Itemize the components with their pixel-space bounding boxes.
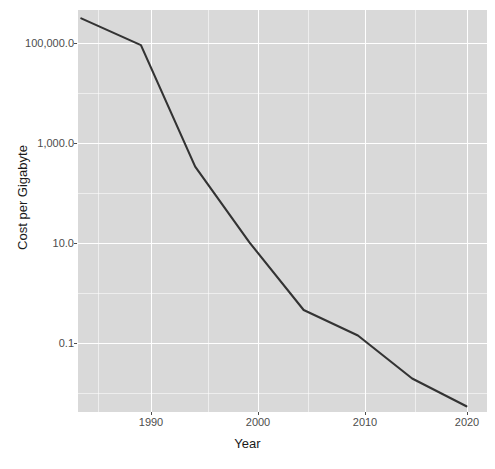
series-cost-per-gigabyte bbox=[78, 10, 487, 412]
x-tick-label-2010: 2010 bbox=[353, 416, 377, 428]
line-path bbox=[81, 18, 466, 406]
y-axis-title: Cost per Gigabyte bbox=[15, 88, 30, 308]
x-tick-label-2000: 2000 bbox=[246, 416, 270, 428]
x-tick-mark-2000 bbox=[258, 412, 259, 415]
x-tick-mark-2010 bbox=[365, 412, 366, 415]
y-tick-mark-10 bbox=[74, 243, 77, 244]
y-tick-mark-1000 bbox=[74, 143, 77, 144]
x-axis-title: Year bbox=[0, 436, 495, 451]
x-tick-mark-1990 bbox=[151, 412, 152, 415]
y-tick-label-100000: 100,000.0 bbox=[0, 37, 74, 49]
y-tick-label-0.1: 0.1 bbox=[0, 337, 74, 349]
x-tick-label-2020: 2020 bbox=[455, 416, 479, 428]
y-tick-mark-100000 bbox=[74, 43, 77, 44]
x-tick-label-1990: 1990 bbox=[139, 416, 163, 428]
chart-container: 100,000.0 1,000.0 10.0 0.1 1990 2000 201… bbox=[0, 0, 495, 469]
y-tick-mark-0.1 bbox=[74, 343, 77, 344]
plot-panel bbox=[78, 10, 487, 412]
y-tick-label-10: 10.0 bbox=[0, 237, 74, 249]
y-tick-label-1000: 1,000.0 bbox=[0, 137, 74, 149]
x-tick-mark-2020 bbox=[467, 412, 468, 415]
